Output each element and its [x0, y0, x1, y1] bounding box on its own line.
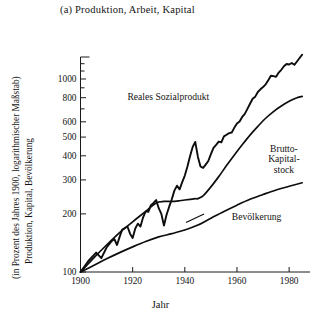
y-tick-label: 1000 [58, 74, 77, 84]
y-tick-label: 500 [62, 132, 76, 142]
y-axis-label-line2: (in Prozent des Jahres 1900, logarithmis… [11, 76, 21, 279]
series-annotation-pop: Bevölkerung [232, 211, 282, 222]
chart-plot-area: 1002003004005006008001000190019201940196… [0, 0, 321, 320]
y-tick-label: 800 [62, 93, 76, 103]
x-axis-label: Jahr [0, 299, 321, 310]
series-annotation-capital: Brutto-Kapital-stock [268, 143, 299, 175]
y-tick-label: 200 [62, 209, 76, 219]
y-axis-label: Produktion, Kapital, Bevölkerung (in Pro… [0, 36, 34, 281]
y-tick-label: 600 [62, 117, 76, 127]
series-annotation-gnp: Reales Sozialprodukt [127, 91, 209, 102]
x-tick-label: 1920 [123, 276, 142, 286]
y-axis-label-line1: Produktion, Kapital, Bevölkerung [24, 138, 34, 264]
series-line-pop [81, 183, 303, 272]
x-tick-label: 1900 [71, 276, 90, 286]
figure-panel: (a) Produktion, Arbeit, Kapital Produkti… [0, 0, 321, 320]
x-tick-label: 1960 [228, 276, 247, 286]
x-tick-label: 1980 [280, 276, 299, 286]
series-line-capital [81, 96, 303, 272]
annotation-leader-line [186, 214, 204, 223]
y-tick-label: 300 [62, 175, 76, 185]
figure-title: (a) Produktion, Arbeit, Kapital [60, 4, 195, 15]
y-tick-label: 400 [62, 151, 76, 161]
x-tick-label: 1940 [175, 276, 194, 286]
